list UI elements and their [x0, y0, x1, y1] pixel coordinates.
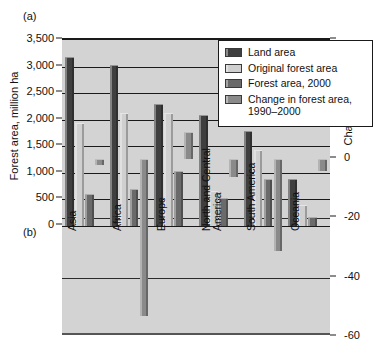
y-axis-left: Forest area, million ha 3,5003,0002,5002…	[0, 0, 62, 358]
bar	[110, 65, 119, 226]
legend-label: Forest area, 2000	[248, 77, 331, 89]
y-axis-right-tick-label: 0	[344, 151, 350, 163]
y-axis-right-tick-label: -60	[344, 329, 360, 341]
legend-item: Land area	[225, 46, 366, 58]
bar	[274, 159, 283, 251]
bar	[184, 132, 193, 159]
y-axis-right-tick-mark	[330, 216, 336, 217]
y-axis-right-tick-mark	[330, 156, 336, 157]
x-axis-category-label: Africa	[111, 204, 123, 231]
gridline	[62, 278, 330, 279]
bar	[140, 159, 149, 316]
bar	[95, 159, 104, 165]
bar	[229, 159, 238, 177]
x-axis-category-label: Oceania	[289, 192, 301, 231]
legend-item: Forest area, 2000	[225, 77, 366, 89]
bar	[85, 194, 94, 226]
gridline	[62, 146, 330, 147]
chart-figure: (a) (b) Forest area, million ha 3,5003,0…	[0, 0, 392, 358]
y-axis-left-title: Forest area, million ha	[8, 16, 20, 236]
bar	[264, 179, 273, 226]
y-axis-left-tick-label: 1,500	[26, 138, 54, 150]
x-axis-category-label: Asia	[66, 211, 78, 231]
y-axis-left-tick-label: 500	[36, 191, 54, 203]
legend-label: Change in forest area, 1990–2000	[248, 93, 366, 117]
y-axis-left-tick-label: 1,000	[26, 165, 54, 177]
chart-legend: Land areaOriginal forest areaForest area…	[218, 40, 373, 127]
bar	[174, 171, 183, 226]
y-axis-left-tick-label: 2,000	[26, 112, 54, 124]
legend-label: Land area	[248, 46, 295, 58]
legend-swatch	[225, 79, 242, 88]
y-axis-right-tick-mark	[330, 38, 336, 39]
bar	[65, 57, 74, 226]
y-axis-right-tick-label: -40	[344, 270, 360, 282]
bar	[318, 159, 327, 171]
bar	[130, 189, 139, 226]
legend-item: Change in forest area, 1990–2000	[225, 93, 366, 117]
legend-swatch	[225, 64, 242, 73]
x-axis-category-label: America	[211, 192, 223, 231]
legend-label: Original forest area	[248, 62, 337, 74]
y-axis-left-tick-label: 3,000	[26, 59, 54, 71]
y-axis-left-tick-label: 2,500	[26, 85, 54, 97]
y-axis-right-tick-mark	[330, 335, 336, 336]
legend-item: Original forest area	[225, 62, 366, 74]
y-axis-right-tick-mark	[330, 275, 336, 276]
legend-swatch	[225, 95, 242, 104]
x-axis-category-label: Europe	[155, 197, 167, 231]
y-axis-left-tick-label: 0	[48, 218, 54, 230]
x-axis-category-label: South America	[245, 163, 257, 231]
gridline	[62, 173, 330, 174]
bar	[308, 217, 317, 226]
y-axis-left-tick-label: 3,500	[26, 32, 54, 44]
y-axis-right-tick-label: -20	[344, 210, 360, 222]
legend-swatch	[225, 48, 242, 57]
